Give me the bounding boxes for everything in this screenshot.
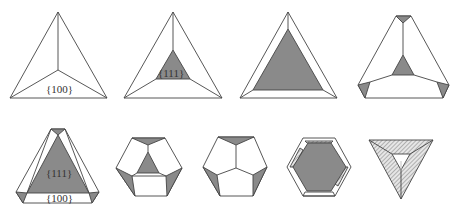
shape-6-hexagon-center-111 xyxy=(116,138,182,196)
shape-3-large-111 xyxy=(240,12,337,98)
label-shape1-100: {100} xyxy=(46,84,73,95)
shape-8-hexagon-hatched xyxy=(287,138,351,196)
shape-2-small-111 xyxy=(124,12,222,98)
crystal-morphology-diagram xyxy=(0,0,457,211)
label-shape2-111: {111} xyxy=(158,68,184,79)
shape-9-inverted-hatched-triangle xyxy=(369,140,433,199)
shape-7-pentagonal-faces xyxy=(203,137,267,196)
label-shape5-111: {111} xyxy=(46,168,72,179)
shape-4-truncated-corners xyxy=(358,16,449,98)
label-shape5-100: {100} xyxy=(46,193,73,204)
